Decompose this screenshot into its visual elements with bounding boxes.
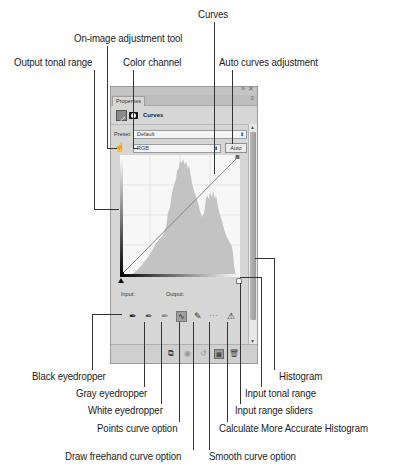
dropdown-arrow-icon: ⬍	[240, 131, 244, 138]
leader-black-eyedropper-h	[92, 314, 122, 315]
callout-output-tonal-range: Output tonal range	[14, 56, 92, 68]
callout-calc-histogram: Calculate More Accurate Histogram	[219, 422, 368, 434]
clip-to-layer-icon[interactable]: ⧉	[166, 349, 176, 359]
curves-adjustment-icon[interactable]	[116, 110, 127, 121]
preset-dropdown[interactable]: Default ⬍	[133, 130, 247, 139]
leader-smooth-curve	[209, 322, 210, 450]
callout-input-tonal-range: Input tonal range	[245, 387, 316, 399]
leader-input-tonal-range-h	[240, 277, 262, 278]
curves-graph[interactable]	[120, 155, 240, 276]
leader-black-eyedropper	[92, 314, 93, 370]
delete-icon[interactable]: 🗑	[229, 349, 239, 359]
leader-on-image-tool	[107, 46, 108, 149]
reset-icon[interactable]: ↺	[198, 349, 208, 359]
callout-color-channel: Color channel	[123, 56, 181, 68]
leader-output-tonal-range	[94, 70, 95, 210]
preset-value: Default	[137, 131, 154, 137]
panel-scrollbar[interactable]: ▲ ▼	[248, 124, 257, 344]
input-label: Input:	[121, 291, 135, 297]
callout-curves: Curves	[198, 8, 228, 20]
freehand-curve-icon[interactable]: ✎	[192, 311, 203, 322]
input-tonal-range-bar	[120, 274, 240, 277]
output-tonal-range-bar	[120, 155, 123, 276]
leader-histogram-h	[255, 258, 275, 259]
white-input-slider[interactable]	[236, 278, 242, 284]
channel-value: RGB	[137, 145, 149, 151]
leader-calc-histogram	[227, 322, 228, 422]
leader-freehand-curve	[193, 322, 194, 450]
auto-button[interactable]: Auto	[225, 143, 247, 153]
leader-gray-eyedropper	[144, 322, 145, 387]
scroll-up-icon[interactable]: ▲	[250, 124, 255, 130]
leader-auto-curves	[232, 70, 233, 144]
leader-color-channel	[133, 70, 134, 148]
adjustment-title: Curves	[143, 112, 163, 118]
smooth-curve-icon[interactable]: ⋯	[208, 311, 219, 322]
white-eyedropper-icon[interactable]: ✒	[159, 311, 170, 322]
callout-freehand-curve: Draw freehand curve option	[65, 450, 181, 462]
callout-histogram: Histogram	[279, 370, 322, 382]
callout-gray-eyedropper: Gray eyedropper	[76, 387, 147, 399]
toggle-visibility-icon[interactable]: ◙	[214, 349, 224, 359]
leader-color-channel-h	[133, 148, 138, 149]
leader-input-tonal-range	[261, 277, 262, 387]
on-image-adjustment-icon[interactable]: ☝	[114, 142, 125, 152]
leader-curves	[214, 22, 215, 174]
panel-menu-icon[interactable]: ≡	[250, 95, 254, 101]
callout-smooth-curve: Smooth curve option	[209, 450, 296, 462]
collapse-icon[interactable]: »	[241, 85, 245, 92]
scroll-thumb[interactable]	[250, 132, 256, 320]
black-input-slider[interactable]	[118, 278, 124, 283]
callout-input-range-sliders: Input range sliders	[235, 404, 313, 416]
callout-auto-curves: Auto curves adjustment	[219, 56, 318, 68]
leader-output-tonal-range-h	[94, 209, 119, 210]
curve-tools-row: ✒ ✒ ✒ ∿ ✎ ⋯ ⚠	[121, 311, 241, 323]
calculate-histogram-icon[interactable]: ⚠	[225, 311, 236, 322]
gray-eyedropper-icon[interactable]: ✒	[143, 311, 154, 322]
output-label: Output:	[166, 291, 184, 297]
leader-on-image-tool-h	[107, 148, 117, 149]
callout-on-image-tool: On-image adjustment tool	[74, 32, 182, 44]
close-icon[interactable]: ✕	[248, 85, 254, 93]
curve-endpoint-white	[236, 155, 240, 159]
preset-label: Preset:	[114, 131, 131, 137]
tab-properties[interactable]: Properties	[112, 96, 145, 106]
panel-bottom-bar: ⧉ ◉ ↺ ◙ 🗑	[111, 344, 257, 363]
channel-dropdown[interactable]: RGB ⬍	[133, 144, 221, 153]
view-previous-icon[interactable]: ◉	[182, 349, 192, 359]
callout-white-eyedropper: White eyedropper	[88, 404, 163, 416]
leader-points-curve	[179, 322, 180, 422]
leader-white-eyedropper	[161, 322, 162, 404]
leader-histogram	[274, 258, 275, 370]
histogram	[120, 155, 240, 276]
callout-points-curve: Points curve option	[97, 422, 177, 434]
points-curve-icon[interactable]: ∿	[176, 311, 187, 322]
callout-black-eyedropper: Black eyedropper	[32, 370, 106, 382]
black-eyedropper-icon[interactable]: ✒	[127, 311, 138, 322]
leader-input-range-sliders	[240, 283, 241, 404]
